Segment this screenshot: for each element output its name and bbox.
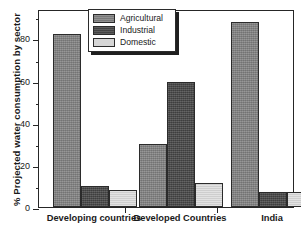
bar-industrial-0 xyxy=(81,186,109,207)
legend-swatch-industrial xyxy=(93,26,115,35)
y-tick-minor xyxy=(36,104,40,105)
legend-item-industrial: Industrial xyxy=(93,25,171,36)
y-tick-minor xyxy=(36,19,40,20)
y-tick-major xyxy=(33,40,39,41)
legend-item-agricultural: Agricultural xyxy=(93,13,171,24)
chart-legend: Agricultural Industrial Domestic xyxy=(88,9,176,52)
x-category-label: India xyxy=(261,213,283,223)
y-tick-major xyxy=(33,167,39,168)
y-tick-label: 20 xyxy=(0,161,30,171)
y-tick-label: 60 xyxy=(0,77,30,87)
bar-industrial-1 xyxy=(167,82,195,207)
bar-industrial-2 xyxy=(259,192,287,207)
bar-agricultural-1 xyxy=(139,144,167,207)
y-tick-label: 80 xyxy=(0,34,30,44)
y-tick-minor xyxy=(36,188,40,189)
legend-item-domestic: Domestic xyxy=(93,37,171,48)
y-tick-label: 0 xyxy=(0,203,30,213)
bar-agricultural-0 xyxy=(53,34,81,207)
bar-domestic-0 xyxy=(109,190,137,207)
y-tick-major xyxy=(33,83,39,84)
bar-agricultural-2 xyxy=(231,22,259,207)
legend-label-domestic: Domestic xyxy=(120,38,156,47)
legend-label-agricultural: Agricultural xyxy=(120,14,163,23)
legend-swatch-agricultural xyxy=(93,14,115,23)
y-tick-minor xyxy=(36,146,40,147)
x-category-label: Developing countries xyxy=(47,213,142,223)
legend-label-industrial: Industrial xyxy=(120,26,155,35)
y-tick-major xyxy=(33,125,39,126)
bar-domestic-1 xyxy=(195,183,223,207)
y-tick-minor xyxy=(36,62,40,63)
x-category-label: Developed Countries xyxy=(134,213,227,223)
bar-domestic-2 xyxy=(287,192,301,207)
y-tick-label: 40 xyxy=(0,119,30,129)
y-tick-major xyxy=(33,209,39,210)
bar-chart: % Projected water consumption by sector … xyxy=(0,0,301,241)
legend-swatch-domestic xyxy=(93,38,115,47)
